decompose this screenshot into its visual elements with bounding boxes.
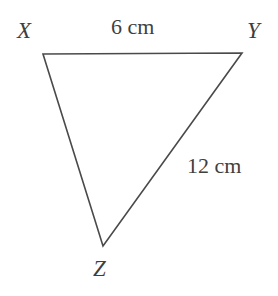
- side-length-label-xy: 6 cm: [111, 16, 154, 38]
- vertex-label-z: Z: [93, 257, 106, 280]
- geometry-figure: X Y Z 6 cm 12 cm: [0, 0, 278, 296]
- vertex-label-x: X: [17, 19, 31, 42]
- side-length-label-yz: 12 cm: [187, 155, 241, 177]
- triangle-drawing: [0, 0, 278, 296]
- triangle-xyz: [43, 53, 242, 246]
- vertex-label-y: Y: [247, 19, 260, 42]
